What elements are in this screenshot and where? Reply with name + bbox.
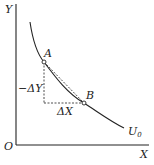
curve-label-subscript: 0 <box>137 131 142 139</box>
indifference-curve <box>30 22 124 128</box>
y-axis-label: Y <box>5 3 14 16</box>
point-a-label: A <box>43 47 52 60</box>
curve-label: U0 <box>128 125 142 139</box>
delta-y-label: −ΔY <box>18 82 44 95</box>
point-a-marker <box>42 60 46 64</box>
delta-x-label: ΔX <box>56 105 74 118</box>
indifference-curve-diagram: Y X O A B −ΔY ΔX U0 <box>0 0 154 165</box>
chord-dashed-line <box>44 62 84 103</box>
origin-label: O <box>4 140 13 153</box>
x-axis-label: X <box>139 148 149 161</box>
point-b-label: B <box>85 89 94 102</box>
